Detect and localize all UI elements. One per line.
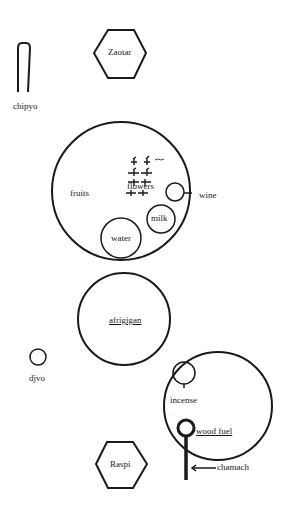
wine-circle bbox=[166, 183, 184, 201]
label-flowers: flowers bbox=[127, 182, 154, 191]
label-afrigigan: afrigigan bbox=[109, 316, 141, 325]
label-djvo: djvo bbox=[29, 374, 45, 383]
label-milk: milk bbox=[151, 214, 168, 223]
chipyo-icon bbox=[18, 43, 30, 92]
label-water: water bbox=[111, 234, 131, 243]
label-chipyo: chipyo bbox=[13, 102, 38, 111]
label-zaotar: Zaotar bbox=[108, 48, 131, 57]
label-raspi: Raspi bbox=[110, 460, 131, 469]
label-wood-fuel: wood fuel bbox=[196, 427, 232, 436]
label-fruits: fruits bbox=[70, 189, 89, 198]
label-incense: incense bbox=[170, 396, 197, 405]
fire-circle bbox=[164, 352, 272, 460]
label-chamach: chamach bbox=[217, 463, 249, 472]
label-wine: wine bbox=[199, 191, 217, 200]
djvo-circle bbox=[30, 349, 46, 365]
wood-fuel-circle bbox=[178, 420, 194, 436]
diagram-canvas bbox=[0, 0, 288, 520]
